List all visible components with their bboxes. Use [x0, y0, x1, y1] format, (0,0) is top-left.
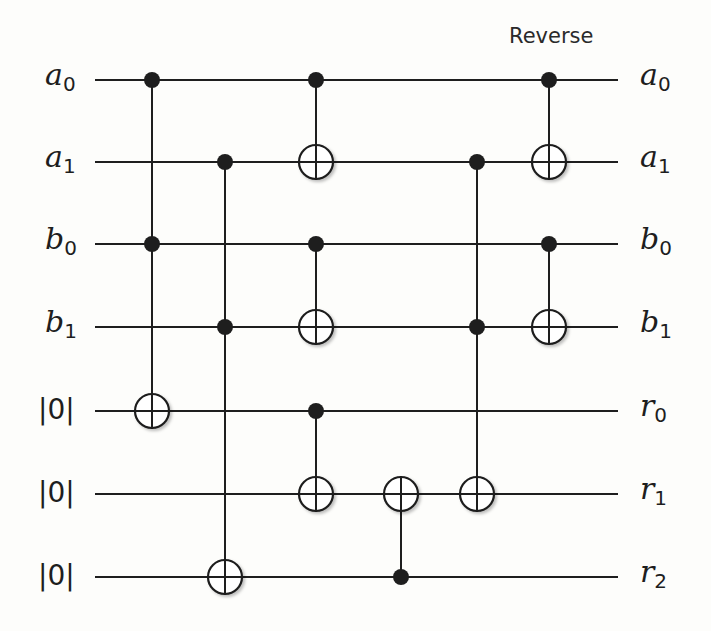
target-xor-icon — [208, 560, 242, 594]
control-dot-icon — [217, 319, 233, 335]
target-xor-icon — [532, 145, 566, 179]
control-dot-icon — [308, 72, 324, 88]
control-dot-icon — [308, 236, 324, 252]
cnot-gate — [460, 154, 494, 511]
control-dot-icon — [469, 154, 485, 170]
cnot-gate — [299, 236, 333, 344]
control-dot-icon — [217, 154, 233, 170]
control-dot-icon — [469, 319, 485, 335]
cnot-gate — [532, 72, 566, 179]
control-dot-icon — [144, 72, 160, 88]
cnot-gate — [299, 403, 333, 511]
target-xor-icon — [299, 145, 333, 179]
target-xor-icon — [532, 310, 566, 344]
control-dot-icon — [541, 72, 557, 88]
control-dot-icon — [393, 569, 409, 585]
target-xor-icon — [135, 394, 169, 428]
target-xor-icon — [299, 310, 333, 344]
cnot-gate — [532, 236, 566, 344]
target-xor-icon — [384, 477, 418, 511]
quantum-circuit — [0, 0, 711, 631]
target-xor-icon — [299, 477, 333, 511]
control-dot-icon — [541, 236, 557, 252]
control-dot-icon — [308, 403, 324, 419]
cnot-gate — [299, 72, 333, 179]
cnot-gate — [135, 72, 169, 428]
cnot-gate — [384, 477, 418, 585]
target-xor-icon — [460, 477, 494, 511]
cnot-gate — [208, 154, 242, 594]
control-dot-icon — [144, 236, 160, 252]
